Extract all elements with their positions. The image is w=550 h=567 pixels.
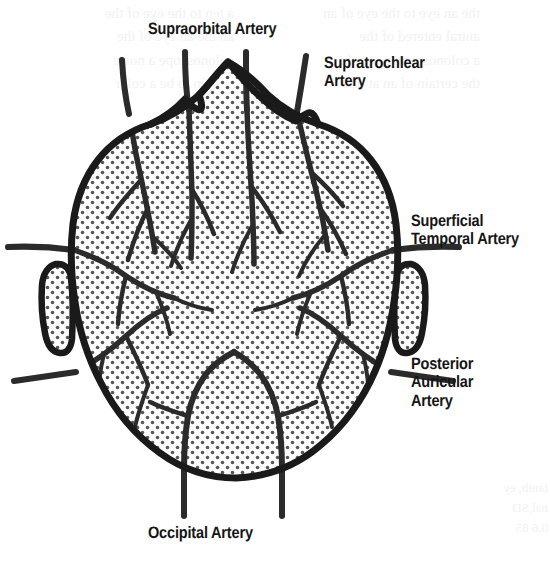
label-supraorbital-artery: Supraorbital Artery: [148, 20, 276, 38]
label-posterior-auricular-artery: Posterior Auricular Artery: [411, 355, 473, 410]
label-occipital-artery: Occipital Artery: [148, 524, 253, 542]
label-superficial-temporal-artery: Superficial Temporal Artery: [411, 212, 519, 249]
head-diagram: [0, 0, 550, 567]
ear-left: [42, 264, 73, 353]
label-supratrochlear-artery: Supratrochlear Artery: [324, 54, 425, 91]
scalp-artery-figure: a ten to the eye of the an the an eye of…: [0, 0, 550, 567]
